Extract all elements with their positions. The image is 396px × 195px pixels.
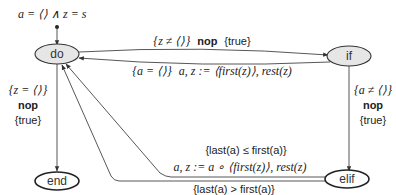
assignment: a, z := a ∘ ⟨first(z)⟩, rest(z) [174, 160, 307, 174]
svg-text:do: do [50, 47, 64, 61]
action: nop [18, 99, 38, 111]
node-elif: elif [325, 170, 369, 188]
label-do-to-if: {z ≠ ⟨⟩} nop {true} [153, 31, 251, 48]
svg-text:if: if [346, 49, 353, 63]
pre-condition: {z = ⟨⟩} [9, 83, 48, 97]
action: nop [363, 99, 383, 111]
post-condition: {true} [360, 114, 387, 126]
edge-do-to-if [79, 49, 328, 55]
svg-text:{z ≠ ⟨⟩} nop {true: {z ≠ ⟨⟩} nop {true} [153, 31, 251, 48]
pre-condition: {a ≠ ⟨⟩} [354, 83, 392, 97]
guard: {a = ⟨⟩} [132, 64, 172, 78]
label-if-to-elif: {a ≠ ⟨⟩} nop {true} [354, 83, 392, 126]
label-elif-to-do-le: {last(a) ≤ first(a)} a, z := a ∘ ⟨first(… [174, 144, 307, 174]
state-diagram: a = ⟨⟩ ∧ z = s do if end elif {z ≠ ⟨⟩} n… [0, 0, 396, 195]
post-condition: {true} [224, 35, 251, 47]
assignment: a, z := ⟨first(z)⟩, rest(z) [179, 64, 292, 78]
post-condition: {true} [15, 114, 42, 126]
node-do: do [35, 44, 79, 64]
node-if: if [327, 46, 371, 66]
label-do-to-end: {z = ⟨⟩} nop {true} [9, 83, 48, 126]
svg-text:end: end [47, 174, 67, 188]
svg-text:{a = ⟨⟩} a, z := ⟨first(: {a = ⟨⟩} a, z := ⟨first(z)⟩, rest(z) [132, 61, 292, 78]
pre-condition: {z ≠ ⟨⟩} [153, 34, 190, 48]
label-if-to-do: {a = ⟨⟩} a, z := ⟨first(z)⟩, rest(z) [132, 61, 292, 78]
initial-condition: a = ⟨⟩ ∧ z = s [18, 7, 87, 21]
action: nop [197, 35, 217, 47]
guard: {last(a) ≤ first(a)} [205, 144, 287, 156]
node-end: end [35, 172, 79, 190]
svg-text:elif: elif [339, 172, 355, 186]
label-elif-to-do-gt: {last(a) > first(a)} [193, 183, 275, 195]
guard: {last(a) > first(a)} [193, 183, 275, 195]
